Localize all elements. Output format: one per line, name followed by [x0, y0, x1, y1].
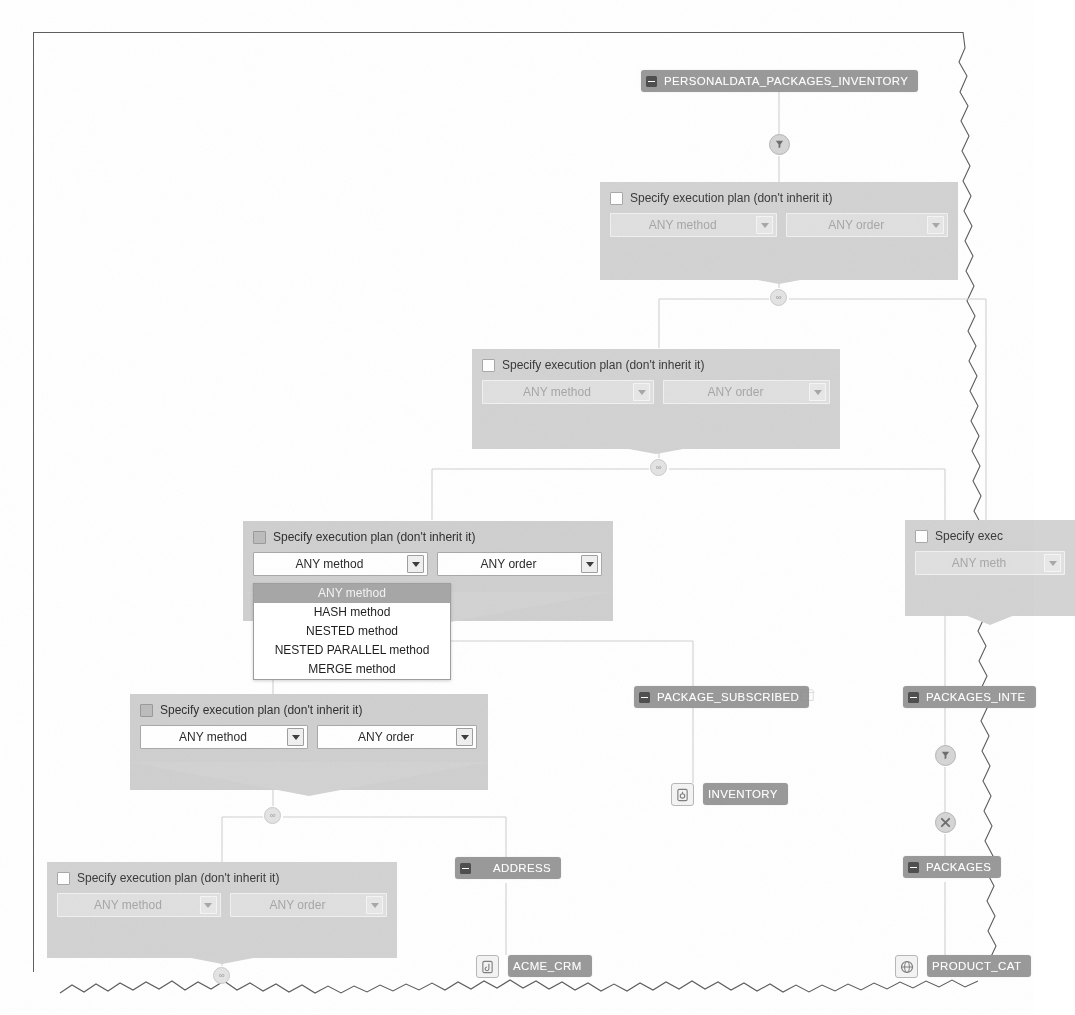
node-packages-inte[interactable]: PACKAGES_INTE [903, 686, 1036, 708]
specify-plan-label: Specify execution plan (don't inherit it… [273, 530, 475, 544]
plan-checkbox-row-1[interactable]: Specify execution plan (don't inherit it… [610, 190, 948, 206]
specify-plan-label: Specify exec [935, 529, 1003, 543]
order-select-4[interactable]: ANY order [317, 725, 477, 749]
minus-box-icon[interactable] [460, 863, 471, 874]
node-label: ADDRESS [493, 862, 551, 874]
minus-box-icon[interactable] [908, 862, 919, 873]
specify-plan-checkbox[interactable] [140, 704, 153, 717]
join-icon: ∞ [776, 294, 782, 302]
chevron-down-icon[interactable] [456, 728, 473, 746]
node-personaldata-packages-inventory[interactable]: PERSONALDATA_PACKAGES_INVENTORY [641, 70, 918, 92]
method-select-5[interactable]: ANY method [57, 893, 221, 917]
dropdown-option[interactable]: MERGE method [254, 660, 450, 679]
method-select-2[interactable]: ANY method [482, 380, 654, 404]
specify-plan-checkbox[interactable] [915, 530, 928, 543]
source-label: PRODUCT_CAT [932, 960, 1021, 972]
specify-plan-label: Specify execution plan (don't inherit it… [160, 703, 362, 717]
badge-join-4[interactable]: ∞ [264, 807, 281, 824]
node-package-subscribed[interactable]: PACKAGE_SUBSCRIBED [634, 686, 809, 708]
join-icon: ∞ [270, 812, 276, 820]
badge-packages-cross[interactable] [935, 812, 956, 833]
chevron-down-icon[interactable] [633, 383, 650, 401]
method-select-value: ANY method [523, 385, 613, 399]
badge-join-2[interactable]: ∞ [650, 459, 667, 476]
method-select-value: ANY method [94, 898, 184, 912]
source-chip-acme-crm[interactable]: ACME_CRM [508, 955, 592, 977]
source-icon-acme-crm[interactable] [476, 955, 499, 978]
node-packages[interactable]: PACKAGES [903, 856, 1001, 878]
plan-checkbox-row-2[interactable]: Specify execution plan (don't inherit it… [482, 357, 830, 373]
chevron-down-icon[interactable] [1044, 554, 1061, 572]
dropdown-option[interactable]: NESTED PARALLEL method [254, 641, 450, 660]
node-label: PACKAGE_SUBSCRIBED [657, 691, 799, 703]
order-select-5[interactable]: ANY order [230, 893, 387, 917]
specify-plan-checkbox[interactable] [482, 359, 495, 372]
specify-plan-label: Specify execution plan (don't inherit it… [502, 358, 704, 372]
specify-plan-checkbox[interactable] [253, 531, 266, 544]
node-label: PACKAGES_INTE [926, 691, 1026, 703]
method-select-4[interactable]: ANY method [140, 725, 308, 749]
chevron-down-icon[interactable] [809, 383, 826, 401]
chevron-down-icon[interactable] [287, 728, 304, 746]
plan-checkbox-row-3[interactable]: Specify execution plan (don't inherit it… [253, 529, 603, 545]
join-icon: ∞ [656, 464, 662, 472]
plan-selects-row-4: ANY method ANY order [140, 725, 478, 749]
plan-checkbox-row-6[interactable]: Specify exec [915, 528, 1065, 544]
specify-plan-label: Specify execution plan (don't inherit it… [630, 191, 832, 205]
plan-selects-row-2: ANY method ANY order [482, 380, 830, 404]
method-select-6[interactable]: ANY meth [915, 551, 1065, 575]
badge-join-1[interactable]: ∞ [770, 289, 787, 306]
method-select-3[interactable]: ANY method [253, 552, 428, 576]
method-select-value: ANY meth [952, 556, 1028, 570]
chevron-down-icon[interactable] [927, 216, 944, 234]
source-chip-product-cat[interactable]: PRODUCT_CAT [927, 955, 1031, 977]
chevron-down-icon[interactable] [407, 555, 424, 573]
method-select-value: ANY method [296, 557, 386, 571]
node-address[interactable]: ADDRESS [455, 857, 561, 879]
dropdown-option[interactable]: HASH method [254, 603, 450, 622]
chevron-down-icon[interactable] [756, 216, 773, 234]
method-select-1[interactable]: ANY method [610, 213, 777, 237]
cross-icon [940, 817, 951, 828]
method-select-value: ANY method [179, 730, 269, 744]
order-select-value: ANY order [358, 730, 436, 744]
badge-packages-filter[interactable] [935, 745, 956, 766]
badge-root-filter[interactable] [769, 134, 790, 155]
minus-box-icon[interactable] [646, 76, 657, 87]
order-select-3[interactable]: ANY order [437, 552, 602, 576]
minus-box-icon[interactable] [908, 692, 919, 703]
minus-box-icon[interactable] [639, 692, 650, 703]
database-icon [676, 788, 689, 802]
order-select-2[interactable]: ANY order [663, 380, 830, 404]
plan-checkbox-row-4[interactable]: Specify execution plan (don't inherit it… [140, 702, 478, 718]
badge-join-5[interactable]: ∞ [213, 967, 230, 984]
database-icon [481, 960, 494, 974]
source-chip-inventory[interactable]: INVENTORY [703, 783, 788, 805]
method-dropdown-list[interactable]: ANY method HASH method NESTED method NES… [253, 583, 451, 680]
source-label: INVENTORY [708, 788, 778, 800]
specify-plan-checkbox[interactable] [57, 872, 70, 885]
order-select-value: ANY order [708, 385, 786, 399]
chevron-down-icon[interactable] [366, 896, 383, 914]
plan-selects-row-3: ANY method ANY order [253, 552, 603, 576]
order-select-value: ANY order [270, 898, 348, 912]
plan-selects-row-5: ANY method ANY order [57, 893, 387, 917]
source-icon-inventory[interactable] [671, 783, 694, 806]
chevron-down-icon[interactable] [581, 555, 598, 573]
method-select-value: ANY method [649, 218, 739, 232]
order-select-1[interactable]: ANY order [786, 213, 948, 237]
specify-plan-checkbox[interactable] [610, 192, 623, 205]
dropdown-option[interactable]: NESTED method [254, 622, 450, 641]
plan-checkbox-row-5[interactable]: Specify execution plan (don't inherit it… [57, 870, 387, 886]
source-icon-product-cat[interactable] [895, 955, 918, 978]
chevron-down-icon[interactable] [200, 896, 217, 914]
join-icon: ∞ [219, 972, 225, 980]
plan-selects-row-1: ANY method ANY order [610, 213, 948, 237]
globe-icon [900, 960, 914, 974]
order-select-value: ANY order [828, 218, 906, 232]
table-outline-icon [797, 688, 817, 704]
dropdown-option[interactable]: ANY method [254, 584, 450, 603]
specify-plan-label: Specify execution plan (don't inherit it… [77, 871, 279, 885]
